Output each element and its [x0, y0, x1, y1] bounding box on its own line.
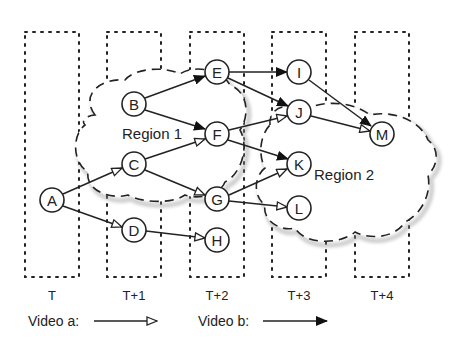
- svg-text:G: G: [211, 191, 223, 208]
- legend-video-a-label: Video a:: [28, 313, 79, 329]
- node-E: E: [205, 60, 229, 84]
- region-2-label: Region 2: [314, 166, 374, 183]
- node-M: M: [370, 122, 394, 146]
- svg-text:M: M: [376, 126, 389, 143]
- svg-text:H: H: [212, 232, 223, 249]
- time-label-T+3: T+3: [288, 288, 311, 303]
- node-A: A: [40, 188, 64, 212]
- time-label-T+1: T+1: [123, 288, 146, 303]
- region-1-label: Region 1: [122, 125, 182, 142]
- svg-text:E: E: [212, 64, 222, 81]
- time-label-T+4: T+4: [371, 288, 394, 303]
- time-label-T+2: T+2: [206, 288, 229, 303]
- time-column-T: [25, 32, 79, 277]
- node-H: H: [205, 228, 229, 252]
- svg-text:A: A: [47, 192, 57, 209]
- node-F: F: [205, 122, 229, 146]
- node-K: K: [287, 152, 311, 176]
- node-B: B: [122, 92, 146, 116]
- node-I: I: [287, 60, 311, 84]
- node-G: G: [205, 187, 229, 211]
- node-J: J: [287, 100, 311, 124]
- svg-text:F: F: [212, 126, 221, 143]
- svg-text:J: J: [295, 104, 303, 121]
- node-D: D: [122, 218, 146, 242]
- svg-text:I: I: [297, 64, 301, 81]
- time-axis-labels: T T+1 T+2 T+3 T+4: [48, 288, 393, 303]
- time-label-T: T: [48, 288, 56, 303]
- svg-text:K: K: [294, 156, 304, 173]
- edge-A-D: [63, 206, 122, 227]
- node-C: C: [122, 152, 146, 176]
- svg-text:L: L: [295, 200, 303, 217]
- svg-text:D: D: [129, 222, 140, 239]
- legend-video-b-label: Video b:: [198, 313, 249, 329]
- svg-text:B: B: [129, 96, 139, 113]
- edge-D-H: [146, 231, 205, 238]
- node-L: L: [287, 196, 311, 220]
- svg-text:C: C: [129, 156, 140, 173]
- diagram-canvas: Region 1 Region 2 A B C D E F G H I J K …: [0, 0, 459, 342]
- legend: Video a: Video b:: [28, 313, 327, 329]
